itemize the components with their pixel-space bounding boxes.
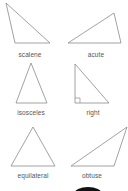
acute-triangle: [68, 13, 121, 43]
triangle-shapes: [0, 0, 128, 191]
scalene-label: scalene: [0, 51, 60, 59]
equilateral-triangle: [11, 127, 55, 166]
obtuse-triangle: [71, 127, 127, 166]
acute-label: acute: [66, 51, 126, 59]
scalene-triangle: [6, 3, 50, 43]
right-label: right: [63, 109, 123, 117]
right-angle-marker: [75, 98, 80, 103]
isosceles-label: isosceles: [1, 109, 61, 117]
isosceles-triangle: [16, 63, 47, 103]
dark-blob-shape: [74, 187, 102, 191]
right-triangle: [75, 64, 109, 103]
obtuse-label: obtuse: [62, 172, 122, 180]
triangle-types-diagram: scalene acute isosceles right equilatera…: [0, 0, 128, 191]
equilateral-label: equilateral: [3, 172, 63, 180]
